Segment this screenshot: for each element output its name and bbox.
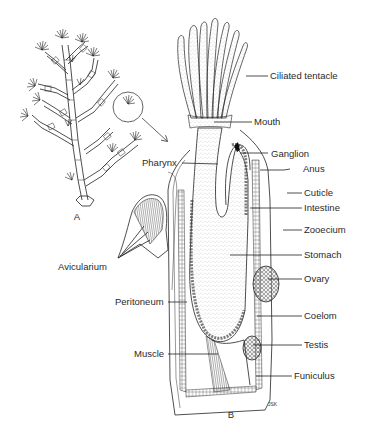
testis xyxy=(243,336,261,360)
label-funiculus: Funiculus xyxy=(294,370,335,381)
label-peritoneum: Peritoneum xyxy=(115,296,164,307)
label-testis: Testis xyxy=(304,339,329,350)
label-ganglion: Ganglion xyxy=(271,148,309,159)
label-ovary: Ovary xyxy=(304,273,330,284)
label-pharynx: Pharynx xyxy=(142,157,177,168)
retractor-muscle xyxy=(206,336,230,392)
label-muscle: Muscle xyxy=(134,348,164,359)
colony-drawing xyxy=(20,29,167,206)
label-ciliated-tentacle: Ciliated tentacle xyxy=(270,70,338,81)
ovary xyxy=(253,266,279,302)
magnification-circle xyxy=(113,92,143,122)
label-intestine: Intestine xyxy=(304,202,340,213)
label-cuticle: Cuticle xyxy=(304,187,333,198)
artist-signature: JSK xyxy=(268,401,278,407)
panel-label-a: A xyxy=(74,211,81,222)
tentacle-crown xyxy=(178,18,248,118)
label-stomach: Stomach xyxy=(304,249,342,260)
label-anus: Anus xyxy=(303,163,325,174)
magnification-arrow xyxy=(142,118,167,141)
label-avicularium: Avicularium xyxy=(58,261,107,272)
panel-label-b: B xyxy=(228,409,234,420)
bryozoan-anatomy-diagram: A xyxy=(0,0,367,443)
label-zooecium: Zooecium xyxy=(304,224,346,235)
label-coelom: Coelom xyxy=(304,310,337,321)
label-mouth: Mouth xyxy=(254,116,280,127)
